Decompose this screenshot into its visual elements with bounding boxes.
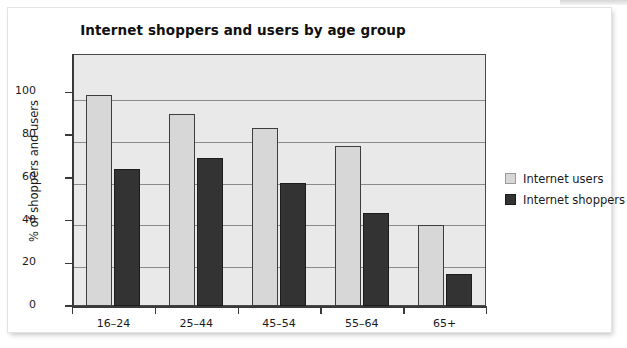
bar-users-0 [86, 95, 112, 306]
chart-title: Internet shoppers and users by age group [8, 22, 478, 38]
bar-shoppers-3 [363, 213, 389, 306]
bar-users-2 [252, 128, 278, 306]
legend-swatch-icon [505, 194, 516, 205]
x-tick-mark [155, 307, 156, 314]
y-tick-mark [65, 177, 73, 178]
bar-users-1 [169, 114, 195, 306]
x-tick-mark [403, 307, 404, 314]
y-tick-mark [65, 263, 73, 264]
bar-shoppers-4 [446, 274, 472, 306]
x-tick-label: 45–54 [239, 317, 319, 330]
x-tick-label: 16–24 [73, 317, 153, 330]
bar-shoppers-0 [114, 169, 140, 306]
x-tick-label: 55–64 [322, 317, 402, 330]
x-tick-label: 65+ [405, 317, 485, 330]
x-tick-mark [238, 307, 239, 314]
y-tick-mark [65, 220, 73, 221]
bars-layer [72, 54, 486, 306]
y-tick-mark [65, 134, 73, 135]
scan-edge-artifact [560, 0, 627, 5]
legend-swatch-icon [505, 173, 516, 184]
x-tick-label: 25–44 [156, 317, 236, 330]
chart-card: Internet shoppers and users by age group… [8, 8, 611, 332]
y-axis-title: % of shoppers and users [27, 81, 41, 261]
legend-item-label: Internet users [523, 172, 603, 186]
bar-shoppers-1 [197, 158, 223, 306]
x-tick-mark [72, 307, 73, 314]
y-tick-label: 0 [0, 298, 36, 311]
y-tick-mark [65, 92, 73, 93]
bar-users-4 [418, 225, 444, 306]
legend-item-internet-shoppers: Internet shoppers [505, 189, 625, 210]
chart-legend: Internet users Internet shoppers [505, 168, 625, 210]
legend-item-internet-users: Internet users [505, 168, 625, 189]
x-axis-line [72, 306, 487, 308]
legend-item-label: Internet shoppers [523, 193, 625, 207]
bar-shoppers-2 [280, 183, 306, 306]
bar-users-3 [335, 146, 361, 306]
x-tick-mark [320, 307, 321, 314]
x-tick-mark [486, 307, 487, 314]
